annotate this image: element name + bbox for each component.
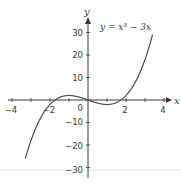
y-tick-label-20: 20 xyxy=(72,50,83,60)
y-tick-label-neg30: −30 xyxy=(65,165,83,175)
y-tick-label-30: 30 xyxy=(72,28,83,38)
y-axis-arrow-icon xyxy=(85,17,91,24)
x-tick-label-neg4: −4 xyxy=(5,105,18,115)
function-curve xyxy=(25,35,152,159)
y-tick-label-neg10: −10 xyxy=(65,117,83,127)
y-axis xyxy=(85,17,91,178)
x-axis-arrow-icon xyxy=(166,97,172,103)
y-tick-label-neg20: −20 xyxy=(65,141,83,151)
x-tick-label-4: 4 xyxy=(160,105,165,115)
x-axis-label: x xyxy=(174,95,180,106)
x-axis xyxy=(8,97,172,103)
chart-canvas: −4 −2 2 4 0 30 20 10 −10 −20 −30 x y y =… xyxy=(0,0,181,183)
x-tick-label-2: 2 xyxy=(122,105,127,115)
equation-label: y = x³ − 3x xyxy=(99,22,151,32)
y-axis-label: y xyxy=(83,6,90,17)
y-tick-label-10: 10 xyxy=(72,73,83,83)
origin-label: 0 xyxy=(78,103,83,113)
